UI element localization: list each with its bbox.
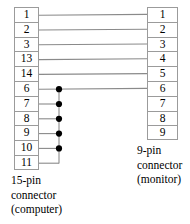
wire-left13-to-right4 (39, 59, 147, 60)
caption-line: connector (11, 188, 62, 203)
pin-cell: 4 (147, 51, 178, 66)
pin-cell: 14 (14, 66, 39, 81)
junction-dot-pin9 (56, 131, 62, 137)
left-connector-15pin: 1 2 3 13 14 6 7 8 9 10 11 (14, 7, 39, 170)
wire-left2-to-right2 (39, 29, 147, 30)
pin-cell: 5 (147, 66, 178, 81)
pin-cell: 7 (14, 96, 39, 111)
pin-cell: 3 (14, 37, 39, 52)
wire-left3-to-right3 (39, 44, 147, 45)
left-connector-caption: 15-pin connector (computer) (11, 173, 62, 217)
connector-wiring-diagram: 1 2 3 13 14 6 7 8 9 10 11 1 2 3 4 5 6 7 … (0, 0, 190, 224)
pin-cell: 13 (14, 51, 39, 66)
ground-bus-group (39, 89, 59, 163)
pin-cell: 1 (147, 7, 178, 22)
direct-wire-group (39, 14, 147, 89)
pin-cell: 8 (14, 111, 39, 126)
caption-line: 9-pin (137, 143, 182, 158)
pin-cell: 9 (14, 125, 39, 140)
junction-dot-pin8 (56, 116, 62, 122)
caption-line: (monitor) (137, 172, 182, 187)
pin-cell: 11 (14, 155, 39, 170)
pin-cell: 6 (147, 81, 178, 96)
pin-cell: 9 (147, 125, 178, 140)
caption-line: connector (137, 158, 182, 173)
caption-line: (computer) (11, 202, 62, 217)
pin-cell: 1 (14, 7, 39, 22)
junction-dot-pin6 (56, 86, 62, 92)
junction-dot-pin10 (56, 145, 62, 151)
pin-cell: 8 (147, 111, 178, 126)
right-connector-caption: 9-pin connector (monitor) (137, 143, 182, 187)
wire-left6-to-right6 (39, 88, 147, 89)
pin-cell: 3 (147, 37, 178, 52)
right-connector-9pin: 1 2 3 4 5 6 7 8 9 (147, 7, 178, 140)
caption-line: 15-pin (11, 173, 62, 188)
junction-dot-pin7 (56, 101, 62, 107)
pin-cell: 10 (14, 140, 39, 155)
wire-left1-to-right1 (39, 14, 147, 15)
pin-cell: 7 (147, 96, 178, 111)
pin-cell: 2 (147, 22, 178, 37)
pin-cell: 2 (14, 22, 39, 37)
pin-cell: 6 (14, 81, 39, 96)
wire-left14-to-right5 (39, 74, 147, 75)
